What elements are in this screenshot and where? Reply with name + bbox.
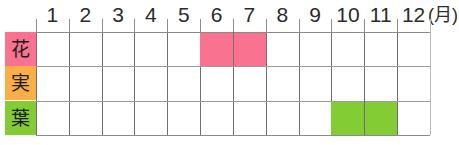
tick-mark xyxy=(102,19,103,33)
month-header-9: 9 xyxy=(299,2,332,28)
grid-vline xyxy=(36,32,37,135)
tick-mark xyxy=(36,19,37,33)
grid-vline-overlay xyxy=(364,101,365,135)
month-header-3: 3 xyxy=(102,2,135,28)
grid-vline xyxy=(430,32,431,135)
month-header-4: 4 xyxy=(134,2,167,28)
tick-mark xyxy=(134,19,135,33)
grid-vline xyxy=(102,32,103,135)
month-header-2: 2 xyxy=(69,2,102,28)
tick-mark xyxy=(430,19,431,33)
tick-mark xyxy=(299,19,300,33)
grid-hline xyxy=(36,135,430,136)
month-header-6: 6 xyxy=(200,2,233,28)
grid-vline xyxy=(299,32,300,135)
grid-area xyxy=(36,32,430,135)
row-label-3: 葉 xyxy=(5,101,36,135)
grid-vline xyxy=(69,32,70,135)
month-header-7: 7 xyxy=(233,2,266,28)
tick-mark xyxy=(266,19,267,33)
month-header-11: 11 xyxy=(364,2,397,28)
grid-vline xyxy=(266,32,267,135)
month-header-1: 1 xyxy=(36,2,69,28)
grid-vline-overlay xyxy=(233,32,234,66)
grid-vline xyxy=(397,32,398,135)
month-header-8: 8 xyxy=(266,2,299,28)
row-label-2: 実 xyxy=(5,66,36,100)
tick-mark xyxy=(69,19,70,33)
grid-vline xyxy=(167,32,168,135)
month-header-5: 5 xyxy=(167,2,200,28)
row-label-1: 花 xyxy=(5,32,36,66)
tick-mark xyxy=(397,19,398,33)
month-header-10: 10 xyxy=(331,2,364,28)
grid-hline xyxy=(36,66,430,67)
grid-vline xyxy=(134,32,135,135)
tick-mark xyxy=(200,19,201,33)
month-unit-label: (月) xyxy=(428,2,458,28)
tick-mark xyxy=(167,19,168,33)
tick-mark xyxy=(331,19,332,33)
month-header-12: 12 xyxy=(397,2,430,28)
flowering-calendar-chart: 1 2 3 4 5 6 7 8 9 10 11 12 (月) 花実葉 xyxy=(0,0,459,145)
tick-mark xyxy=(233,19,234,33)
tick-mark xyxy=(364,19,365,33)
